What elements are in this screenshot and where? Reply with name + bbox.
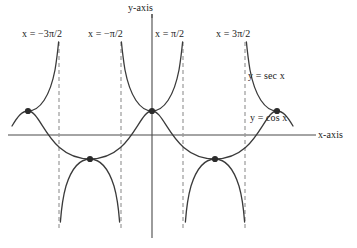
cosine-curve-label: y = cos x bbox=[250, 112, 287, 123]
y-axis-label: y-axis bbox=[128, 2, 153, 13]
secant-curve-label: y = sec x bbox=[248, 70, 285, 81]
tangency-point-pos-pi bbox=[212, 156, 218, 162]
tangency-point-origin bbox=[149, 108, 155, 114]
tangency-point-neg-2pi bbox=[25, 108, 31, 114]
asymptote-label-neg-pi-over-2: x = −π/2 bbox=[88, 28, 123, 39]
secant-branch-left-outer bbox=[28, 42, 59, 111]
secant-branch-right-down bbox=[185, 159, 244, 222]
asymptote-label-pi-over-2: x = π/2 bbox=[155, 28, 184, 39]
secant-branch-left-down bbox=[60, 159, 119, 222]
x-axis-label: x-axis bbox=[318, 129, 343, 140]
tangency-point-neg-pi bbox=[87, 156, 93, 162]
asymptote-label-3pi-over-2: x = 3π/2 bbox=[216, 28, 250, 39]
asymptote-label-neg-3pi-over-2: x = −3π/2 bbox=[22, 28, 62, 39]
